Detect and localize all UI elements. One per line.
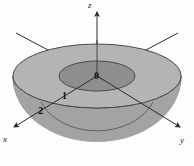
figure-canvas — [0, 0, 194, 166]
math-figure: z x y 0 1 2 — [0, 0, 194, 166]
inner-radius-label: 1 — [62, 91, 67, 101]
y-axis-label: y — [180, 136, 184, 145]
outer-radius-label: 2 — [38, 106, 43, 116]
x-axis-label: x — [3, 135, 7, 144]
z-axis-label: z — [88, 1, 92, 10]
origin-label: 0 — [94, 71, 99, 81]
